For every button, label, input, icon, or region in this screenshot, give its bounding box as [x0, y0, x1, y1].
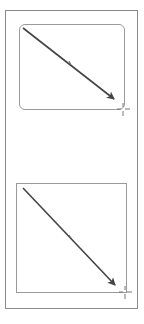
crosshair-cursor-icon [117, 103, 130, 116]
crosshair-cursor-icon [119, 286, 132, 299]
arrow-2[interactable] [23, 188, 115, 285]
arrow-1[interactable] [23, 28, 114, 99]
arrows-layer [0, 0, 144, 324]
